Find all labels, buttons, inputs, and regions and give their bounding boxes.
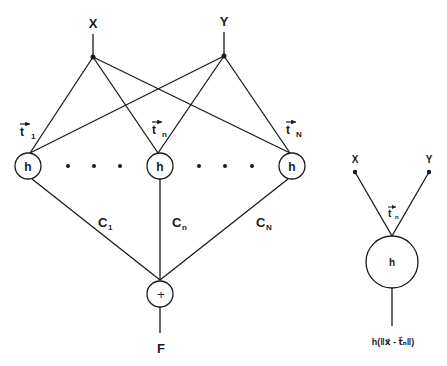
svg-text:1: 1	[31, 132, 36, 141]
svg-text:N: N	[296, 130, 302, 139]
ellipsis-dot	[66, 164, 70, 168]
detail-y-node	[427, 170, 431, 174]
ellipsis-dot	[223, 164, 227, 168]
ellipsis-dot	[118, 164, 122, 168]
ellipsis-dot	[197, 164, 201, 168]
coef-label-c1: C 1	[98, 215, 113, 232]
edge-x-hN	[93, 57, 290, 153]
svg-text:t: t	[286, 123, 290, 137]
input-x-node	[91, 55, 96, 60]
svg-text:t: t	[20, 125, 24, 139]
edge-h1-sum	[32, 179, 160, 280]
hidden-unit-N-label: h	[288, 160, 295, 174]
coef-label-cn: C n	[172, 215, 187, 232]
input-y-node	[222, 54, 227, 59]
hidden-unit-1-label: h	[24, 160, 31, 174]
svg-text:N: N	[266, 223, 272, 232]
output-label: F	[157, 341, 165, 356]
detail-x-label: X	[352, 154, 359, 165]
svg-text:n: n	[395, 214, 399, 220]
edge-y-h1	[30, 56, 224, 153]
detail-y-label: Y	[426, 154, 433, 165]
svg-text:C: C	[172, 215, 182, 230]
svg-text:n: n	[162, 130, 167, 139]
input-y-label: Y	[220, 14, 229, 29]
ellipsis-dot	[92, 164, 96, 168]
edge-x-h1	[30, 57, 93, 153]
weight-label-tN: t N	[286, 122, 302, 139]
detail-output-formula: h(‖x⃗ - t⃗ₙ‖)	[372, 336, 415, 347]
svg-text:1: 1	[108, 223, 113, 232]
coef-label-cN: C N	[256, 215, 272, 232]
detail-edge-y	[392, 172, 429, 236]
svg-text:t: t	[388, 208, 392, 219]
svg-text:n: n	[182, 223, 187, 232]
edge-y-hN	[224, 56, 290, 153]
hidden-unit-n-label: h	[156, 160, 163, 174]
weight-label-t1: t 1	[20, 124, 36, 141]
detail-x-node	[353, 170, 357, 174]
edge-y-hn	[158, 56, 224, 153]
input-x-label: X	[89, 16, 98, 31]
detail-unit-label: h	[389, 257, 395, 268]
rbf-network-diagram: X Y h h h t 1 t n t N C 1 C n C N + F X …	[0, 0, 447, 366]
svg-text:C: C	[98, 215, 108, 230]
svg-text:t: t	[152, 123, 156, 137]
ellipsis-dot	[250, 164, 254, 168]
sum-symbol: +	[157, 287, 165, 302]
weight-label-tn: t n	[152, 122, 167, 139]
detail-center-label: t n	[388, 207, 399, 220]
svg-text:C: C	[256, 215, 266, 230]
detail-edge-x	[355, 172, 392, 236]
